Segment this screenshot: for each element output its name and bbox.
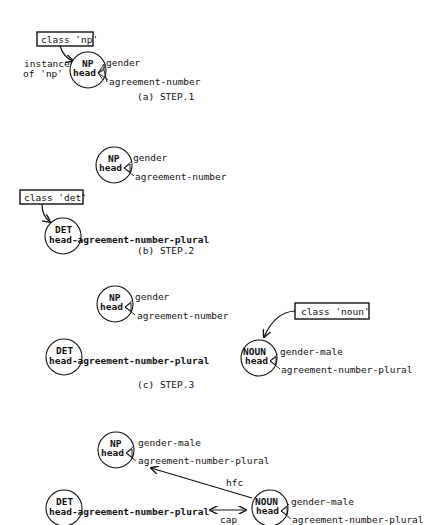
np-feature-agreement: agreement-number [135, 171, 227, 182]
noun-feature-gender: gender-male [291, 496, 354, 507]
det-node: DET head-agreement-number-plural [46, 339, 209, 375]
noun-slot: head [256, 505, 279, 516]
np-node: NP head gender agreement-number [70, 52, 201, 88]
step-3: NP head gender agreement-number class 'n… [46, 286, 413, 390]
feature-structure-diagram: class 'np' instance of 'np' NP head gend… [0, 0, 429, 525]
np-slot: head [101, 447, 124, 458]
det-node: DET head-agreement-number-plural [46, 490, 209, 525]
instance-label-line2: of 'np' [23, 68, 63, 79]
np-node: NP head gender agreement-number [96, 147, 227, 183]
np-feature-gender: gender [133, 152, 168, 163]
noun-slot: head [245, 355, 268, 366]
det-slot-text: head-agreement-number-plural [49, 234, 209, 245]
noun-feature-agreement: agreement-number-plural [292, 514, 424, 525]
det-slot-text: head-agreement-number-plural [49, 355, 209, 366]
step-1-caption: (a) STEP.1 [137, 91, 194, 102]
np-feature-agreement: agreement-number-plural [138, 455, 270, 466]
instance-arrow [42, 204, 50, 222]
noun-node: NOUN head gender-male agreement-number-p… [241, 340, 413, 376]
cap-edge-label: cap [220, 514, 237, 525]
det-slot-text: head-agreement-number-plural [49, 506, 209, 517]
np-feature-gender: gender [106, 57, 141, 68]
np-feature-gender: gender [135, 291, 170, 302]
class-box-np: class 'np' [37, 32, 98, 46]
noun-feature-agreement: agreement-number-plural [281, 364, 413, 375]
np-node: NP head gender agreement-number [97, 286, 229, 322]
np-slot: head [100, 301, 123, 312]
np-feature-agreement: agreement-number [109, 76, 201, 87]
np-feature-agreement: agreement-number [137, 310, 229, 321]
hfc-edge-label: hfc [226, 477, 243, 488]
np-slot: head [99, 162, 122, 173]
step-4: NP head gender-male agreement-number-plu… [46, 432, 424, 525]
step-1: class 'np' instance of 'np' NP head gend… [23, 32, 201, 102]
step-3-caption: (c) STEP.3 [137, 379, 194, 390]
class-box-np-label: class 'np' [41, 34, 98, 45]
class-box-det: class 'det' [20, 190, 87, 204]
class-box-noun: class 'noun' [295, 303, 370, 319]
np-slot: head [73, 67, 96, 78]
np-feature-gender: gender-male [138, 437, 201, 448]
step-2-caption: (b) STEP.2 [137, 245, 194, 256]
step-2: NP head gender agreement-number class 'd… [20, 147, 227, 256]
noun-feature-gender: gender-male [280, 346, 343, 357]
np-node: NP head gender-male agreement-number-plu… [98, 432, 270, 468]
class-box-det-label: class 'det' [24, 192, 87, 203]
instance-arrow [264, 311, 295, 337]
noun-node: NOUN head gender-male agreement-number-p… [252, 490, 424, 525]
class-box-noun-label: class 'noun' [301, 306, 370, 317]
